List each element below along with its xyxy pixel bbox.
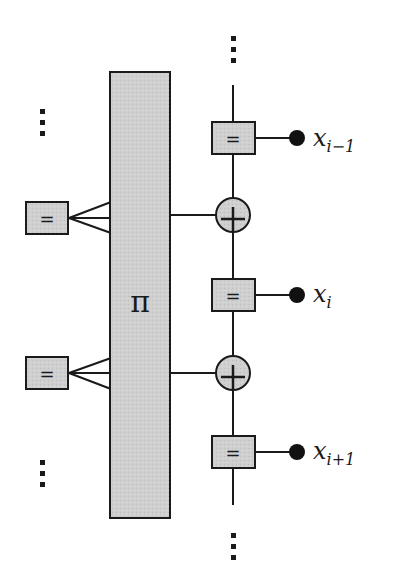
variable-node-x-i-plus-1 — [289, 444, 305, 460]
eq-node-left-1: = — [26, 202, 68, 234]
variable-node-x-i-minus-1 — [289, 130, 305, 146]
eq-node-right-3: = — [212, 436, 255, 468]
eq-node-left-2: = — [26, 357, 68, 389]
interleaver-block: π — [110, 72, 170, 518]
ellipsis-left-bottom — [40, 460, 45, 487]
plus-node-1 — [216, 198, 250, 232]
eq-symbol: = — [225, 442, 240, 463]
eq-symbol: = — [39, 208, 54, 229]
eq-symbol: = — [39, 363, 54, 384]
ellipsis-right-bottom — [231, 533, 236, 560]
eq-symbol: = — [225, 128, 240, 149]
variable-label-x-i-minus-1: xi−1 — [313, 124, 355, 156]
fan-edges-left-1 — [69, 202, 111, 233]
variable-label-x-i-plus-1: xi+1 — [313, 437, 355, 469]
variable-node-x-i — [289, 287, 305, 303]
eq-node-right-2: = — [212, 279, 255, 311]
ellipsis-left-top — [40, 109, 45, 136]
eq-symbol: = — [225, 285, 240, 306]
ellipsis-right-top — [231, 36, 236, 63]
interleaver-label: π — [130, 284, 150, 319]
variable-label-x-i: xi — [313, 280, 332, 312]
factor-graph-diagram: π = = = = = xi−1 — [0, 0, 394, 584]
eq-node-right-1: = — [212, 122, 255, 154]
variable-edges — [255, 138, 292, 452]
plus-node-2 — [216, 356, 250, 390]
fan-edges-left-2 — [69, 358, 111, 389]
